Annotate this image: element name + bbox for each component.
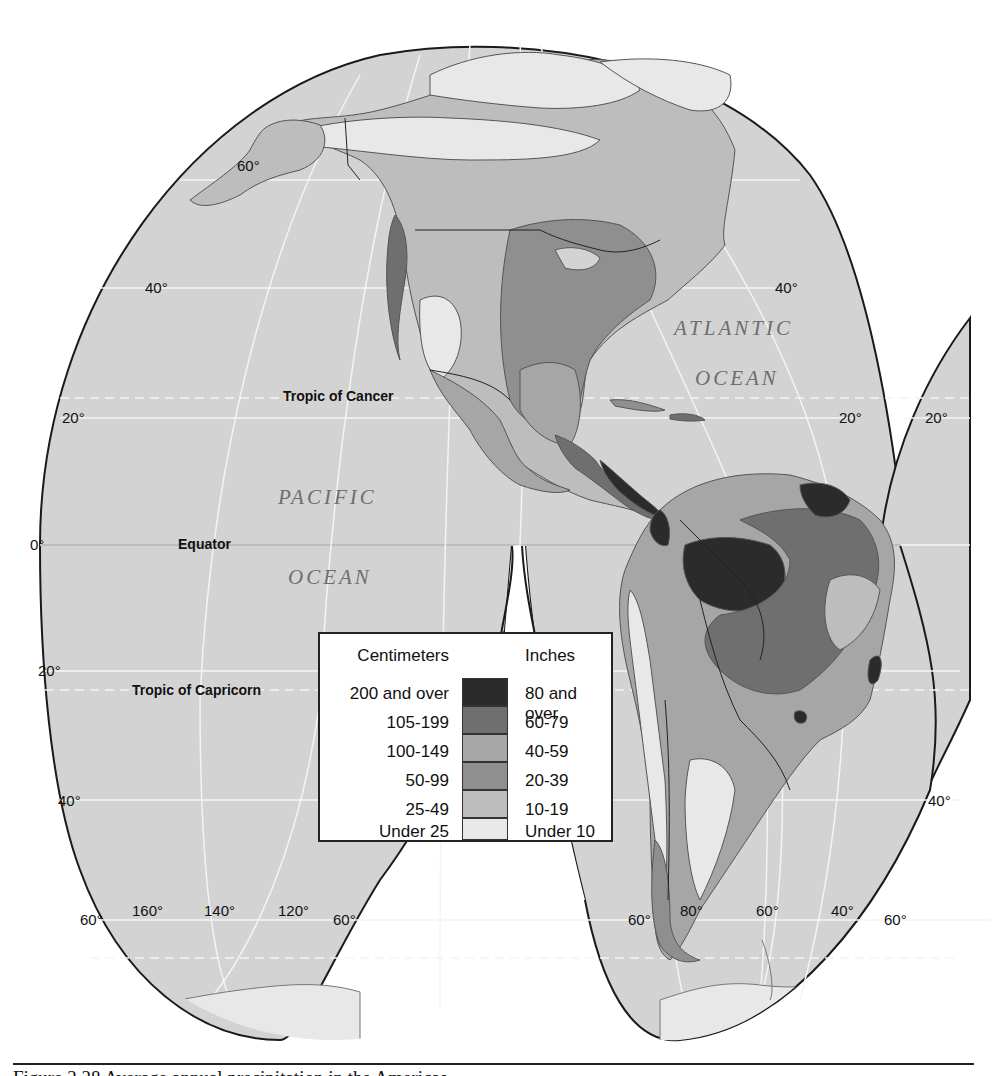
lobe2-60s-right-label: 60° [884, 911, 907, 928]
lat-label-20s: 20° [38, 662, 61, 679]
lon-140-label: 140° [204, 902, 235, 919]
legend-swatch-60-79 [462, 706, 508, 734]
lat-label-40n: 40° [145, 279, 168, 296]
lat-label-40s: 40° [58, 792, 81, 809]
pacific-ocean-label-2: OCEAN [288, 565, 372, 590]
legend-cm-label: Under 25 [379, 822, 449, 842]
lon-80-label: 80° [680, 902, 703, 919]
legend-in-label: 40-59 [525, 742, 568, 762]
legend-cm-label: 200 and over [350, 684, 449, 704]
legend-header-cm: Centimeters [357, 646, 449, 666]
lon-60-label: 60° [756, 902, 779, 919]
legend: Centimeters Inches 200 and over 80 and o… [318, 632, 613, 842]
legend-swatch-20-39 [462, 762, 508, 790]
lat-label-right-20n-b: 20° [925, 409, 948, 426]
lobe2-60s-left-label: 60° [628, 911, 651, 928]
pacific-ocean-label: PACIFIC [278, 485, 377, 510]
lon-120-label: 120° [278, 902, 309, 919]
legend-in-label: 20-39 [525, 771, 568, 791]
legend-cm-label: 25-49 [406, 800, 449, 820]
legend-cm-label: 100-149 [387, 742, 449, 762]
lat-label-right-20n-a: 20° [839, 409, 862, 426]
lat-label-right-40s: 40° [928, 792, 951, 809]
lat-label-right-40n: 40° [775, 279, 798, 296]
legend-in-label: Under 10 [525, 822, 595, 842]
legend-swatch-under-10 [462, 818, 508, 840]
legend-in-label: 60-79 [525, 713, 568, 733]
legend-cm-label: 105-199 [387, 713, 449, 733]
legend-swatch-10-19 [462, 790, 508, 818]
equator-label: Equator [178, 536, 231, 552]
lobe1-60s-left-label: 60° [80, 911, 103, 928]
legend-in-label: 10-19 [525, 800, 568, 820]
tropic-of-cancer-label: Tropic of Cancer [283, 388, 393, 404]
lobe1-60s-right-label: 60° [333, 911, 356, 928]
atlantic-ocean-label: ATLANTIC [674, 316, 793, 341]
figure-caption: Figure 2.28 Average annual precipitation… [13, 1067, 447, 1076]
legend-swatch-80-over [462, 678, 508, 706]
tropic-of-capricorn-label: Tropic of Capricorn [132, 682, 261, 698]
lat-label-60n: 60° [237, 157, 260, 174]
lon-160-label: 160° [132, 902, 163, 919]
lat-label-0: 0° [30, 536, 44, 553]
caption-rule [13, 1063, 974, 1065]
legend-cm-label: 50-99 [406, 771, 449, 791]
legend-header-in: Inches [525, 646, 575, 666]
lat-label-20n: 20° [62, 409, 85, 426]
lon-40-label: 40° [831, 902, 854, 919]
legend-swatch-40-59 [462, 734, 508, 762]
atlantic-ocean-label-2: OCEAN [695, 366, 779, 391]
